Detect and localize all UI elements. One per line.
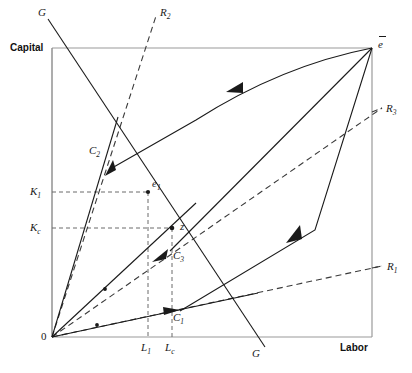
- point-label-z: z: [180, 221, 184, 232]
- tick-label-K1: K1: [30, 186, 41, 200]
- ray-arrowheads: [95, 160, 180, 327]
- dot-ray-C1-mid: [95, 323, 99, 327]
- stub-R1: [372, 266, 382, 268]
- dot-e1: [146, 190, 150, 194]
- endowment-label-ebar: e: [378, 36, 386, 50]
- dot-z: [170, 226, 175, 231]
- arrow-path-C2: [226, 82, 243, 93]
- ray-origin-C2: [52, 117, 118, 337]
- arrow-C3: [152, 249, 168, 262]
- path-ebar-to-C1: [180, 48, 372, 311]
- y-axis-label: Capital: [10, 42, 43, 53]
- line-label-G-bottom: G: [252, 348, 260, 359]
- ray-stubs: [372, 108, 382, 268]
- tick-label-L1: L1: [141, 342, 151, 356]
- x-axis-label: Labor: [340, 342, 368, 353]
- path-ebar-to-C3: [170, 48, 372, 251]
- point-label-e1: e1: [152, 178, 161, 192]
- line-label-G-top: G: [38, 7, 46, 18]
- path-ebar-to-C2: [112, 48, 372, 168]
- ray-origin-C1: [52, 293, 258, 337]
- point-label-C1: C1: [173, 312, 184, 326]
- plot-box: [52, 48, 372, 337]
- origin-label: 0: [41, 330, 47, 342]
- dot-ray-C3-mid: [103, 287, 107, 291]
- figure-canvas: Capital Labor 0 e K1 Kc L1 Lc C2 e1 z C3…: [0, 0, 412, 373]
- tick-label-Kc: Kc: [30, 222, 41, 236]
- path-arrowheads: [226, 82, 302, 243]
- ray-label-R2: R2: [160, 7, 170, 21]
- ray-label-R1: R1: [387, 261, 397, 275]
- arrow-C2: [105, 160, 116, 176]
- arrow-path-C1: [286, 225, 302, 243]
- ray-R3: [52, 108, 382, 337]
- overbar: [379, 36, 386, 37]
- tick-label-Lc: Lc: [165, 342, 174, 356]
- point-label-C3: C3: [173, 250, 184, 264]
- ray-label-R3: R3: [386, 103, 396, 117]
- point-label-C2: C2: [89, 145, 100, 159]
- rays-from-origin: [52, 117, 258, 337]
- diagram-svg: [0, 0, 412, 373]
